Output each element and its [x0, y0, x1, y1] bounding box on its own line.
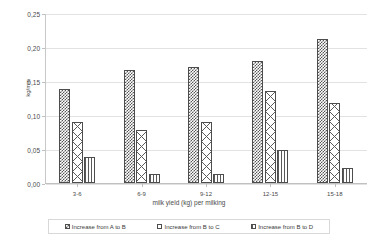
y-tick-label: 0,05 — [27, 147, 40, 154]
legend-swatch-icon — [65, 224, 70, 229]
y-tick-mark — [42, 116, 45, 117]
x-tick-label: 15-18 — [327, 191, 342, 197]
y-tick-mark — [42, 48, 45, 49]
y-tick-label: 0,00 — [27, 181, 40, 188]
y-tick-label: 0,10 — [27, 113, 40, 120]
y-tick-mark — [42, 14, 45, 15]
y-tick-mark — [42, 150, 45, 151]
bar — [59, 89, 70, 183]
bar — [213, 174, 224, 183]
y-axis-line — [45, 14, 46, 184]
legend-label: Increase from B to C — [164, 224, 219, 230]
x-tick-label: 12-15 — [263, 191, 278, 197]
bar — [201, 122, 212, 183]
bar — [317, 39, 328, 183]
y-tick-mark — [42, 184, 45, 185]
x-tick-mark — [270, 184, 271, 187]
legend-label: Increase from B to D — [258, 224, 313, 230]
y-tick-label: 0,20 — [27, 45, 40, 52]
y-tick-label: 0,25 — [27, 11, 40, 18]
bar-chart: kg/min 0,000,050,100,150,200,25 3-66-99-… — [0, 0, 378, 246]
bar — [252, 61, 263, 183]
bar — [265, 91, 276, 183]
bar — [277, 150, 288, 183]
x-tick-label: 9-12 — [200, 191, 212, 197]
y-axis-title: kg/min — [25, 58, 31, 118]
legend-swatch-icon — [157, 224, 162, 229]
legend-item[interactable]: Increase from B to D — [251, 224, 313, 230]
chart-legend: Increase from A to BIncrease from B to C… — [48, 219, 330, 234]
bar — [124, 70, 135, 183]
x-tick-mark — [142, 184, 143, 187]
x-axis-title: milk yield (kg) per milking — [0, 199, 378, 206]
bar — [72, 122, 83, 183]
bar — [329, 103, 340, 183]
bar — [342, 168, 353, 183]
x-tick-mark — [335, 184, 336, 187]
legend-label: Increase from A to B — [72, 224, 126, 230]
x-tick-label: 6-9 — [137, 191, 146, 197]
x-tick-mark — [206, 184, 207, 187]
bar — [149, 174, 160, 183]
x-tick-label: 3-6 — [73, 191, 82, 197]
legend-swatch-icon — [251, 224, 256, 229]
legend-item[interactable]: Increase from A to B — [65, 224, 126, 230]
x-tick-mark — [77, 184, 78, 187]
plot-area: 0,000,050,100,150,200,25 3-66-99-1212-15… — [45, 14, 367, 184]
y-tick-mark — [42, 82, 45, 83]
gridline — [46, 14, 367, 15]
bar — [136, 130, 147, 183]
bar — [84, 157, 95, 183]
y-tick-label: 0,15 — [27, 79, 40, 86]
bar — [188, 67, 199, 183]
legend-item[interactable]: Increase from B to C — [157, 224, 219, 230]
